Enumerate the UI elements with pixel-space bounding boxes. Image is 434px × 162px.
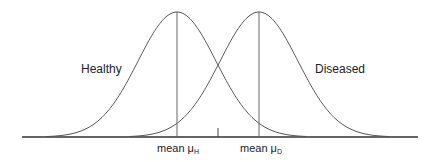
distribution-diagram: Healthy Diseased mean μH mean μD <box>0 0 434 162</box>
diseased-label: Diseased <box>315 62 365 76</box>
mean-diseased-subscript: D <box>277 148 282 155</box>
healthy-label: Healthy <box>81 62 122 76</box>
mean-diseased-text: mean μ <box>240 142 277 154</box>
mean-healthy-subscript: H <box>194 148 199 155</box>
mean-healthy-text: mean μ <box>157 142 194 154</box>
mean-healthy-label: mean μH <box>157 142 199 155</box>
mean-diseased-label: mean μD <box>240 142 282 155</box>
curves-svg <box>0 0 434 162</box>
